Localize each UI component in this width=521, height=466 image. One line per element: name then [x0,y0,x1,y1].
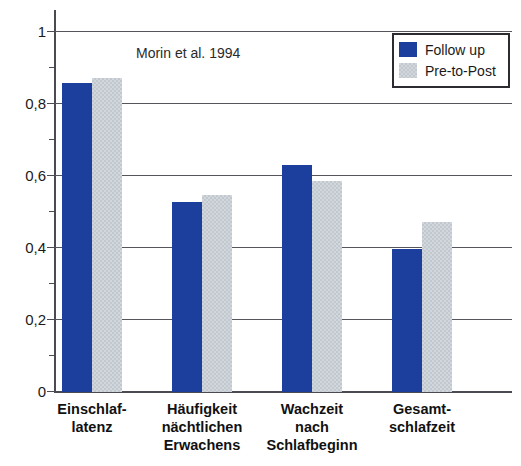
chart-legend: Follow up Pre-to-Post [392,33,510,88]
bar-follow-up-haeufigkeit [172,202,202,392]
y-tick-label-0: 0 [6,384,46,399]
legend-label-pre-to-post: Pre-to-Post [425,64,496,78]
legend-item-pre-to-post: Pre-to-Post [399,60,503,81]
legend-item-follow-up: Follow up [399,39,503,60]
bar-group-haeufigkeit-naechtlichen-erwachens [172,31,232,392]
x-label-line: latenz [32,418,152,436]
bar-pre-to-post-haeufigkeit [202,195,232,392]
bar-pre-to-post-gesamtschlafzeit [422,222,452,392]
x-label-wachzeit-nach-schlafbeginn: Wachzeit nach Schlafbeginn [252,400,372,454]
bar-pre-to-post-wachzeit [312,181,342,392]
bar-follow-up-wachzeit [282,165,312,392]
bar-chart: 1 0,8 0,6 0,4 0,2 0 [0,0,521,466]
y-minor-tick-0-5 [49,211,55,212]
x-label-line: Wachzeit [252,400,372,418]
y-minor-tick-0-7 [49,139,55,140]
bar-pre-to-post-einschlaflatenz [92,78,122,392]
bar-group-einschlaflatenz [62,31,122,392]
x-label-line: schlafzeit [362,418,482,436]
x-axis-labels: Einschlaf- latenz Häufigkeit nächtlichen… [55,400,512,466]
bar-follow-up-einschlaflatenz [62,83,92,392]
y-minor-tick-0-3 [49,283,55,284]
x-label-line: nächtlichen [142,418,262,436]
x-label-einschlaflatenz: Einschlaf- latenz [32,400,152,436]
y-tick-label-1: 1 [6,24,46,39]
legend-swatch-pre-to-post-icon [399,63,417,78]
x-label-gesamtschlafzeit: Gesamt- schlafzeit [362,400,482,436]
legend-swatch-follow-up-icon [399,42,417,57]
y-tick-label-0-8: 0,8 [6,96,46,111]
x-label-line: nach [252,418,372,436]
x-label-line: Gesamt- [362,400,482,418]
chart-annotation: Morin et al. 1994 [136,46,240,60]
y-tick-label-0-4: 0,4 [6,240,46,255]
x-label-haeufigkeit-naechtlichen-erwachens: Häufigkeit nächtlichen Erwachens [142,400,262,454]
y-tick-label-0-2: 0,2 [6,312,46,327]
y-tick-label-0-6: 0,6 [6,168,46,183]
bar-follow-up-gesamtschlafzeit [392,249,422,392]
bar-group-wachzeit-nach-schlafbeginn [282,31,342,392]
legend-label-follow-up: Follow up [425,43,485,57]
x-label-line: Schlafbeginn [252,436,372,454]
y-minor-tick-0-1 [49,355,55,356]
x-label-line: Häufigkeit [142,400,262,418]
x-label-line: Erwachens [142,436,262,454]
x-label-line: Einschlaf- [32,400,152,418]
y-minor-tick-0-9 [49,67,55,68]
